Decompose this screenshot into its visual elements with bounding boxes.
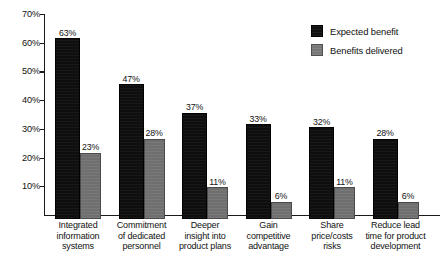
category-label-line: price/costs bbox=[299, 231, 365, 242]
category-label-line: Share bbox=[299, 220, 365, 231]
bar-value-label: 6% bbox=[275, 191, 287, 201]
legend-swatch-black bbox=[311, 25, 323, 37]
bar-group: 37%11% bbox=[182, 12, 228, 219]
y-tick-label: 60% bbox=[22, 38, 40, 48]
category-label-line: Reduce lead bbox=[363, 220, 429, 231]
bar-value-label: 63% bbox=[59, 28, 76, 38]
y-tick-label: 30% bbox=[22, 124, 40, 134]
category-label: Deeperinsight intoproduct plans bbox=[172, 220, 238, 252]
bar-expected-benefit: 63% bbox=[55, 38, 80, 219]
y-tick-mark bbox=[40, 186, 45, 187]
legend-label: Benefits delivered bbox=[330, 45, 403, 56]
bar-value-label: 32% bbox=[313, 117, 330, 127]
category-label-line: Gain bbox=[236, 220, 302, 231]
category-label-line: Integrated bbox=[45, 220, 111, 231]
bar-value-label: 6% bbox=[402, 191, 414, 201]
bar-group: 63%23% bbox=[55, 12, 101, 219]
category-label-line: Deeper bbox=[172, 220, 238, 231]
category-label-line: development bbox=[363, 241, 429, 252]
bar-value-label: 33% bbox=[249, 114, 266, 124]
y-tick-label: 50% bbox=[22, 66, 40, 76]
category-label-line: product plans bbox=[172, 241, 238, 252]
legend-item: Expected benefit bbox=[311, 25, 403, 37]
chart-legend: Expected benefitBenefits delivered bbox=[311, 25, 403, 56]
bar-expected-benefit: 33% bbox=[246, 124, 271, 219]
legend-swatch-gray bbox=[311, 44, 323, 56]
bar-expected-benefit: 37% bbox=[182, 113, 207, 219]
legend-item: Benefits delivered bbox=[311, 44, 403, 56]
category-label: Integratedinformationsystems bbox=[45, 220, 111, 252]
legend-label: Expected benefit bbox=[330, 26, 398, 37]
category-label-line: personnel bbox=[109, 241, 175, 252]
y-tick-mark bbox=[40, 43, 45, 44]
bar-value-label: 37% bbox=[186, 102, 203, 112]
category-label-line: risks bbox=[299, 241, 365, 252]
bar-value-label: 28% bbox=[145, 128, 162, 138]
category-label-line: information bbox=[45, 231, 111, 242]
y-tick-label: 20% bbox=[22, 153, 40, 163]
figure-caption bbox=[14, 268, 434, 279]
category-label-line: advantage bbox=[236, 241, 302, 252]
category-label-line: of dedicated bbox=[109, 231, 175, 242]
category-label: Gaincompetitiveadvantage bbox=[236, 220, 302, 252]
y-axis-line bbox=[44, 14, 45, 215]
y-tick-mark bbox=[40, 100, 45, 101]
bar-benefits-delivered: 23% bbox=[80, 153, 101, 219]
category-label-line: insight into bbox=[172, 231, 238, 242]
category-label: Shareprice/costsrisks bbox=[299, 220, 365, 252]
y-tick-mark bbox=[40, 14, 45, 15]
bar-group: 33%6% bbox=[246, 12, 292, 219]
bar-benefits-delivered: 11% bbox=[334, 187, 355, 219]
bar-expected-benefit: 47% bbox=[119, 84, 144, 219]
bar-benefits-delivered: 6% bbox=[398, 202, 419, 219]
category-label: Commitmentof dedicatedpersonnel bbox=[109, 220, 175, 252]
y-tick-mark bbox=[40, 71, 45, 72]
y-tick-label: 70% bbox=[22, 9, 40, 19]
category-label-line: systems bbox=[45, 241, 111, 252]
category-label: Reduce leadtime for productdevelopment bbox=[363, 220, 429, 252]
bar-benefits-delivered: 28% bbox=[144, 139, 165, 219]
bar-expected-benefit: 28% bbox=[373, 139, 398, 219]
bar-value-label: 28% bbox=[376, 128, 393, 138]
bar-expected-benefit: 32% bbox=[309, 127, 334, 219]
bar-value-label: 11% bbox=[336, 177, 353, 187]
y-tick-label: 40% bbox=[22, 95, 40, 105]
category-label-line: time for product bbox=[363, 231, 429, 242]
category-label-line: Commitment bbox=[109, 220, 175, 231]
bar-value-label: 47% bbox=[122, 74, 139, 84]
y-tick-label: 10% bbox=[22, 181, 40, 191]
category-label-line: competitive bbox=[236, 231, 302, 242]
bar-value-label: 23% bbox=[82, 142, 99, 152]
figure: 10%20%30%40%50%60%70% 63%23%47%28%37%11%… bbox=[0, 0, 446, 279]
bar-value-label: 11% bbox=[209, 177, 226, 187]
bar-group: 47%28% bbox=[119, 12, 165, 219]
y-tick-mark bbox=[40, 129, 45, 130]
bar-benefits-delivered: 11% bbox=[207, 187, 228, 219]
bar-benefits-delivered: 6% bbox=[271, 202, 292, 219]
y-tick-mark bbox=[40, 158, 45, 159]
